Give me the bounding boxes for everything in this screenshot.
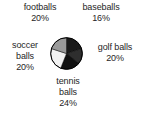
pie-graphic	[50, 37, 83, 70]
slice-label-soccer-balls: soccer balls 20%	[2, 40, 48, 73]
slice-label-footballs-name: footballs	[12, 2, 68, 13]
slice-label-tennis-balls: tennis balls 24%	[44, 76, 92, 109]
slice-label-footballs: footballs 20%	[12, 2, 68, 24]
slice-label-baseballs-percent: 16%	[72, 13, 130, 24]
slice-label-footballs-percent: 20%	[12, 13, 68, 24]
slice-label-golf-balls: golf balls 20%	[88, 42, 142, 64]
slice-label-golf-balls-name: golf balls	[88, 42, 142, 53]
slice-label-tennis-balls-name-line1: tennis	[44, 76, 92, 87]
slice-label-tennis-balls-name-line2: balls	[44, 87, 92, 98]
slice-label-golf-balls-percent: 20%	[88, 53, 142, 64]
slice-label-soccer-balls-name-line1: soccer	[2, 40, 48, 51]
slice-label-tennis-balls-percent: 24%	[44, 98, 92, 109]
pie-svg	[50, 37, 83, 70]
slice-label-soccer-balls-name-line2: balls	[2, 51, 48, 62]
slice-label-baseballs-name: baseballs	[72, 2, 130, 13]
pie-chart-figure: footballs 20% baseballs 16% soccer balls…	[0, 0, 142, 122]
slice-label-soccer-balls-percent: 20%	[2, 62, 48, 73]
slice-label-baseballs: baseballs 16%	[72, 2, 130, 24]
